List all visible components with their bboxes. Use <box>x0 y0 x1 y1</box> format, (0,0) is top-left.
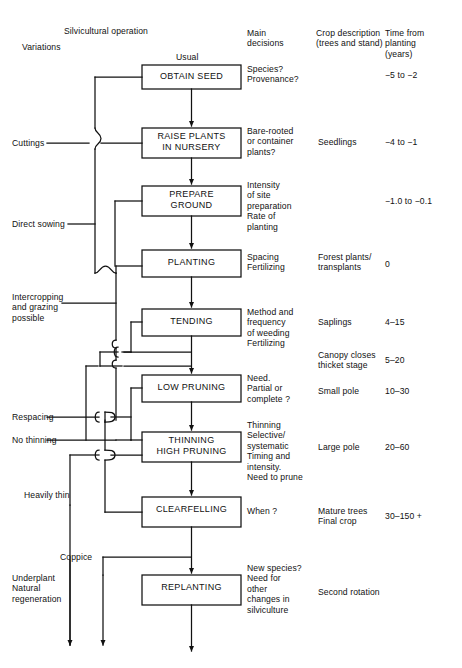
decisions-replanting: New species? Need for other changes in s… <box>247 563 302 615</box>
box-tending[interactable]: TENDING <box>142 316 241 327</box>
decisions-raise-plants: Bare-rooted or container plants? <box>247 126 294 157</box>
box-thinning-high-pruning[interactable]: THINNING HIGH PRUNING <box>142 435 241 457</box>
crop-tending: Saplings <box>318 317 352 327</box>
time-low-pruning: 10–30 <box>385 386 409 396</box>
flowchart-figure: Silvicultural operation Variations Usual… <box>0 0 462 668</box>
crop-thinning: Large pole <box>318 442 360 452</box>
crop-low-pruning: Small pole <box>318 386 359 396</box>
box-replanting[interactable]: REPLANTING <box>142 582 241 593</box>
decisions-obtain-seed: Species? Provenance? <box>247 64 299 85</box>
header-silvicultural-operation: Silvicultural operation <box>64 26 148 36</box>
crop-replanting: Second rotation <box>318 587 380 597</box>
header-time-from-planting: Time from planting (years) <box>385 28 424 59</box>
variation-cuttings: Cuttings <box>12 138 44 148</box>
variation-direct-sowing: Direct sowing <box>12 219 65 229</box>
time-planting: 0 <box>385 259 390 269</box>
decisions-thinning: Thinning Selective/ systematic Timing an… <box>247 420 303 482</box>
variation-respacing: Respacing <box>12 412 54 422</box>
crop-canopy-closes: Canopy closes thicket stage <box>318 350 376 371</box>
box-obtain-seed[interactable]: OBTAIN SEED <box>142 71 241 82</box>
crop-planting: Forest plants/ transplants <box>318 252 371 273</box>
box-clearfelling[interactable]: CLEARFELLING <box>142 504 241 515</box>
variation-no-thinning: No thinning <box>12 435 57 445</box>
time-canopy-closes: 5–20 <box>385 355 405 365</box>
time-clearfelling: 30–150 + <box>385 511 422 521</box>
variation-heavily-thin: Heavily thin <box>24 490 70 500</box>
box-raise-plants[interactable]: RAISE PLANTS IN NURSERY <box>142 131 241 153</box>
decisions-clearfelling: When ? <box>247 506 277 516</box>
time-obtain-seed: −5 to −2 <box>385 70 417 80</box>
decisions-low-pruning: Need. Partial or complete ? <box>247 373 290 404</box>
variation-underplant: Underplant Natural regeneration <box>12 573 61 604</box>
decisions-prepare-ground: Intensity of site preparation Rate of pl… <box>247 180 292 232</box>
decisions-planting: Spacing Fertilizing <box>247 252 285 273</box>
time-raise-plants: −4 to −1 <box>385 137 417 147</box>
header-variations: Variations <box>22 42 61 52</box>
crop-raise-plants: Seedlings <box>318 137 357 147</box>
time-prepare-ground: −1.0 to −0.1 <box>385 196 432 206</box>
flowchart-connectors <box>0 0 462 668</box>
header-crop-description: Crop description (trees and stand) <box>316 28 383 49</box>
box-low-pruning[interactable]: LOW PRUNING <box>142 382 241 393</box>
decisions-tending: Method and frequency of weeding Fertiliz… <box>247 307 293 349</box>
box-prepare-ground[interactable]: PREPARE GROUND <box>142 189 241 211</box>
crop-clearfelling: Mature trees Final crop <box>318 506 367 527</box>
time-tending: 4–15 <box>385 317 405 327</box>
time-thinning: 20–60 <box>385 442 409 452</box>
variation-coppice: Coppice <box>60 552 92 562</box>
box-planting[interactable]: PLANTING <box>142 257 241 268</box>
header-usual: Usual <box>176 52 198 62</box>
header-main-decisions: Main decisions <box>247 28 284 49</box>
variation-intercropping: Intercropping and grazing possible <box>12 292 63 323</box>
